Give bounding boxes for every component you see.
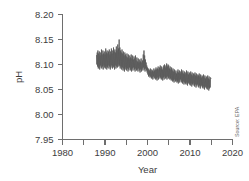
- y-tick-label: 8.00: [35, 109, 54, 120]
- y-tick-label: 8.10: [35, 59, 54, 70]
- data-series-line: [97, 40, 211, 91]
- y-tick-label: 7.95: [35, 134, 54, 145]
- y-tick-label: 8.15: [35, 34, 54, 45]
- x-tick-label: 1990: [94, 147, 115, 158]
- x-tick-label: 2020: [222, 147, 243, 158]
- x-tick-label: 2000: [137, 147, 158, 158]
- y-tick-label: 8.20: [35, 9, 54, 20]
- x-tick-label: 2010: [179, 147, 200, 158]
- y-axis-title: pH: [13, 71, 24, 83]
- x-axis-title: Year: [138, 164, 157, 175]
- source-annotation: Source: EPA: [234, 106, 240, 137]
- x-tick-label: 1980: [52, 147, 73, 158]
- chart-canvas: 7.958.008.058.108.158.201980199020002010…: [0, 0, 249, 181]
- ocean-ph-chart: 7.958.008.058.108.158.201980199020002010…: [0, 0, 249, 181]
- y-tick-label: 8.05: [35, 84, 54, 95]
